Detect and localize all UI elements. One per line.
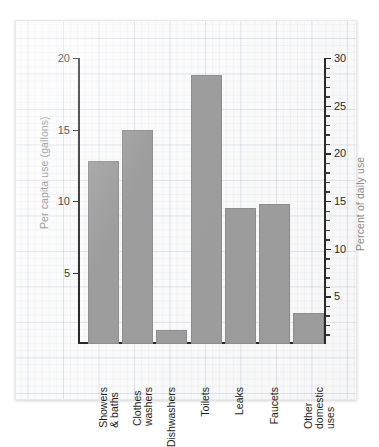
y-right-tick-21 <box>326 144 330 145</box>
y-right-tick-label-30: 30 <box>334 52 346 64</box>
y-left-tick-label-15: 15 <box>58 124 70 136</box>
y-right-tick-label-10: 10 <box>334 243 346 255</box>
y-right-tick-1 <box>326 334 330 335</box>
y-left-tick-label-5: 5 <box>64 267 70 279</box>
bar-6 <box>259 204 290 344</box>
graph-paper-card: 5101520 51015202530 Showers & bathsCloth… <box>15 20 357 400</box>
y-right-tick-7 <box>326 277 330 278</box>
y-right-tick-19 <box>326 163 330 164</box>
y-right-tick-label-20: 20 <box>334 147 346 159</box>
y-right-tick-30 <box>326 58 331 59</box>
y-right-tick-9 <box>326 258 330 259</box>
y-right-tick-12 <box>326 230 330 231</box>
y-right-tick-10 <box>326 249 331 250</box>
y-right-tick-14 <box>326 211 330 212</box>
bar-2 <box>122 130 153 345</box>
category-label-5: Leaks <box>234 387 245 415</box>
y-right-tick-18 <box>326 172 330 173</box>
y-right-tick-11 <box>326 239 330 240</box>
y-left-tick-label-20: 20 <box>58 52 70 64</box>
y-right-tick-2 <box>326 325 330 326</box>
y-right-tick-17 <box>326 182 330 183</box>
y-right-tick-24 <box>326 115 330 116</box>
y-right-tick-29 <box>326 68 330 69</box>
y-right-tick-22 <box>326 134 330 135</box>
y-right-tick-27 <box>326 87 330 88</box>
bar-7 <box>293 313 324 344</box>
bar-1 <box>88 161 119 344</box>
y-right-tick-28 <box>326 77 330 78</box>
y-right-tick-25 <box>326 106 331 107</box>
y-left-tick-5 <box>73 273 78 274</box>
y-axis-right-title: Percent of daily use <box>354 157 366 251</box>
y-right-tick-15 <box>326 201 331 202</box>
y-right-tick-20 <box>326 153 331 154</box>
bar-5 <box>225 208 256 344</box>
category-label-2: Clothes washers <box>132 387 154 426</box>
bar-4 <box>191 75 222 344</box>
bar-3 <box>156 330 187 344</box>
y-right-tick-13 <box>326 220 330 221</box>
y-axis-left-line <box>78 58 80 344</box>
y-right-tick-23 <box>326 125 330 126</box>
y-right-tick-4 <box>326 306 330 307</box>
y-right-tick-6 <box>326 287 330 288</box>
y-axis-left-title: Per capita use (gallons) <box>38 116 50 229</box>
category-label-7: Other domestic uses <box>303 387 336 429</box>
y-right-tick-5 <box>326 296 331 297</box>
y-left-tick-15 <box>73 130 78 131</box>
y-left-tick-10 <box>73 201 78 202</box>
y-right-tick-label-15: 15 <box>334 195 346 207</box>
category-label-1: Showers & baths <box>98 387 120 428</box>
y-left-tick-label-10: 10 <box>58 195 70 207</box>
y-right-tick-16 <box>326 191 330 192</box>
chart-plot-area: 5101520 51015202530 Showers & bathsCloth… <box>78 58 326 344</box>
category-label-3: Dishwashers <box>166 387 177 447</box>
y-left-tick-20 <box>73 58 78 59</box>
y-right-tick-label-5: 5 <box>334 290 340 302</box>
y-right-tick-26 <box>326 96 330 97</box>
category-label-4: Toilets <box>200 387 211 417</box>
y-right-tick-8 <box>326 268 330 269</box>
category-label-6: Faucets <box>269 387 280 424</box>
y-right-tick-label-25: 25 <box>334 100 346 112</box>
y-right-tick-3 <box>326 315 330 316</box>
